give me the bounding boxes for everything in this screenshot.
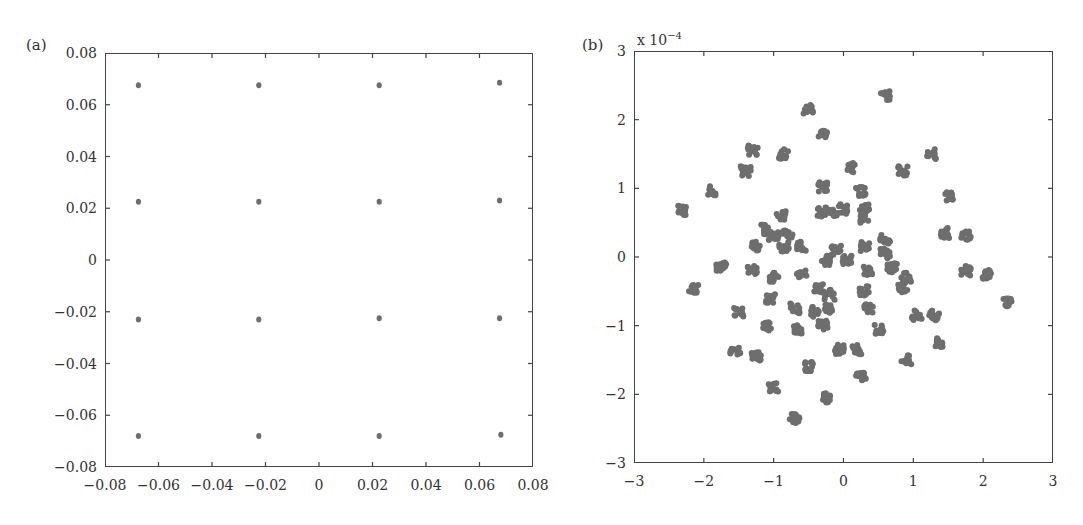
symbol-cluster: [958, 229, 973, 243]
constellation-point: [256, 317, 261, 323]
symbol-cluster: [926, 308, 942, 323]
symbol-cluster: [801, 102, 816, 117]
symbol-cluster: [858, 239, 872, 254]
symbol-cluster: [787, 411, 803, 426]
x-tick-label: 1: [909, 473, 918, 489]
y-tick-label: 0.08: [66, 45, 97, 61]
symbol-cluster: [877, 232, 893, 246]
constellation-point: [498, 432, 503, 438]
constellation-point: [377, 315, 382, 321]
symbol-cluster: [705, 183, 718, 198]
symbol-cluster: [958, 263, 973, 278]
y-tick-label: 0: [88, 252, 97, 268]
x-tick-label: 2: [979, 473, 988, 489]
x-tick-label: 0.08: [517, 477, 548, 493]
symbol-cluster: [686, 282, 701, 296]
constellation-point: [377, 199, 382, 205]
symbol-cluster: [760, 319, 774, 333]
constellation-point: [377, 82, 382, 88]
symbol-cluster: [802, 359, 816, 374]
constellation-point: [136, 199, 141, 205]
x-tick-label: 0.06: [464, 477, 495, 493]
symbol-cluster: [794, 239, 809, 254]
panel-a-label: (a): [26, 36, 47, 54]
constellation-point: [497, 197, 502, 203]
symbol-cluster: [776, 146, 791, 161]
x-tick-label: −0.02: [244, 477, 287, 493]
symbol-cluster: [727, 345, 743, 358]
symbol-cluster: [794, 267, 809, 280]
symbol-cluster: [791, 322, 805, 336]
symbol-cluster: [815, 318, 830, 333]
symbol-cluster: [924, 146, 939, 162]
symbol-cluster: [857, 212, 871, 226]
symbol-cluster: [808, 304, 822, 320]
y-tick-label: 1: [617, 180, 626, 196]
symbol-cluster: [933, 335, 946, 350]
constellation-point: [497, 80, 502, 86]
y-tick-label: −3: [605, 455, 626, 471]
symbol-cluster: [815, 179, 830, 194]
symbol-cluster: [713, 259, 729, 273]
symbol-cluster: [857, 283, 872, 298]
x-tick-label: 0: [839, 473, 848, 489]
symbol-cluster: [774, 208, 789, 223]
x-tick-label: 0.04: [410, 477, 441, 493]
y-tick-label: 0.04: [66, 149, 97, 165]
symbol-cluster: [877, 246, 892, 261]
symbol-cluster: [766, 380, 781, 394]
x-tick-label: −0.08: [84, 477, 127, 493]
symbol-cluster: [942, 189, 955, 203]
symbol-cluster: [853, 184, 868, 199]
y-tick-label: −0.02: [54, 304, 97, 320]
constellation-point: [136, 317, 141, 323]
x-tick-label: 3: [1049, 473, 1058, 489]
y-tick-label: 0.02: [66, 200, 97, 216]
plot-b-scatter: [634, 51, 1053, 463]
plot-a-scatter: [105, 53, 533, 467]
symbol-cluster: [738, 163, 754, 179]
symbol-cluster: [878, 88, 893, 103]
y-tick-label: 3: [617, 43, 626, 59]
y-tick-label: −1: [605, 318, 626, 334]
symbol-cluster: [845, 160, 858, 175]
symbol-cluster: [675, 203, 688, 218]
y-tick-label: 0.06: [66, 97, 97, 113]
constellation-point: [136, 82, 141, 88]
symbol-cluster: [861, 264, 875, 278]
symbol-cluster: [850, 342, 865, 357]
symbol-cluster: [763, 291, 778, 306]
symbol-cluster: [749, 349, 764, 363]
constellation-point: [256, 82, 261, 88]
symbol-cluster: [787, 301, 802, 317]
exponent-power: −4: [667, 30, 682, 41]
constellation-point: [377, 433, 382, 439]
y-tick-label: 2: [617, 112, 626, 128]
x-tick-label: −0.04: [191, 477, 234, 493]
symbol-cluster: [909, 307, 925, 322]
symbol-cluster: [745, 143, 761, 158]
x-tick-label: −2: [694, 473, 715, 489]
constellation-point: [256, 199, 261, 205]
symbol-cluster: [853, 370, 869, 384]
symbol-cluster: [872, 322, 887, 337]
panel-b-label: (b): [582, 36, 603, 54]
symbol-cluster: [832, 342, 847, 357]
x-tick-label: −1: [763, 473, 784, 489]
symbol-cluster: [884, 260, 899, 275]
y-tick-label: −0.08: [54, 459, 97, 475]
symbol-cluster: [898, 352, 914, 367]
y-tick-label: −0.06: [54, 407, 97, 423]
y-tick-label: −0.04: [54, 356, 97, 372]
y-tick-label: 0: [617, 249, 626, 265]
symbol-cluster: [840, 253, 855, 267]
symbol-cluster: [745, 263, 760, 277]
symbol-cluster: [895, 163, 910, 178]
symbol-cluster: [731, 305, 746, 319]
constellation-point: [136, 433, 141, 439]
symbol-cluster: [780, 227, 795, 240]
symbol-cluster: [822, 302, 835, 316]
symbol-cluster: [749, 239, 763, 254]
exponent-prefix: x 10: [637, 32, 667, 48]
x-tick-label: −0.06: [137, 477, 180, 493]
